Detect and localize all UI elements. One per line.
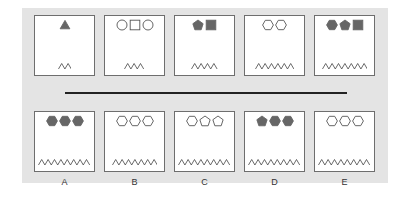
divider-line [65,92,347,94]
circle-icon [142,19,154,31]
shape-group [105,115,164,129]
sequence-frame-2 [104,15,165,76]
hexagon-icon [129,115,141,127]
shape-group [35,115,94,129]
pentagon-icon [199,115,211,127]
square-icon [205,19,217,31]
sequence-frame-1 [34,15,95,76]
zigzag-icon [191,63,218,70]
zigzag-line [35,159,94,167]
zigzag-line [35,63,94,71]
square-icon [352,19,364,31]
hexagon-icon [186,115,198,127]
shape-group [105,19,164,33]
option-label-e: E [314,177,375,187]
zigzag-icon [255,63,294,70]
zigzag-line [105,63,164,71]
circle-icon [116,19,128,31]
option-e[interactable] [314,111,375,172]
hexagon-icon [339,115,351,127]
pentagon-icon [256,115,268,127]
triangle-icon [59,19,71,31]
zigzag-line [175,63,234,71]
option-label-c: C [174,177,235,187]
pentagon-icon [212,115,224,127]
zigzag-line [315,159,374,167]
zigzag-icon [58,63,72,70]
hexagon-icon [59,115,71,127]
zigzag-icon [322,63,368,70]
option-label-b: B [104,177,165,187]
hexagon-icon [72,115,84,127]
hexagon-icon [269,115,281,127]
hexagon-icon [116,115,128,127]
hexagon-icon [142,115,154,127]
shape-group [35,19,94,33]
option-d[interactable] [244,111,305,172]
zigzag-icon [248,159,300,166]
option-b[interactable] [104,111,165,172]
shape-group [315,19,374,33]
pentagon-icon [339,19,351,31]
zigzag-icon [112,159,158,166]
shape-group [315,115,374,129]
pentagon-icon [192,19,204,31]
hexagon-icon [326,115,338,127]
zigzag-icon [124,63,144,70]
option-a[interactable] [34,111,95,172]
option-label-a: A [34,177,95,187]
sequence-frame-3 [174,15,235,76]
hexagon-icon [282,115,294,127]
sequence-frame-5 [314,15,375,76]
zigzag-line [175,159,234,167]
zigzag-icon [38,159,90,166]
option-c[interactable] [174,111,235,172]
zigzag-icon [178,159,230,166]
square-icon [129,19,141,31]
zigzag-line [315,63,374,71]
hexagon-icon [326,19,338,31]
shape-group [245,115,304,129]
hexagon-icon [262,19,274,31]
hexagon-icon [275,19,287,31]
zigzag-icon [318,159,370,166]
shape-group [175,19,234,33]
sequence-frame-4 [244,15,305,76]
shape-group [245,19,304,33]
hexagon-icon [46,115,58,127]
hexagon-icon [352,115,364,127]
zigzag-line [105,159,164,167]
option-label-d: D [244,177,305,187]
zigzag-line [245,63,304,71]
zigzag-line [245,159,304,167]
shape-group [175,115,234,129]
